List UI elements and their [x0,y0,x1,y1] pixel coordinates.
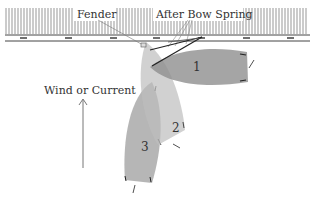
diagram-canvas: Fender After Bow Spring Wind or Current … [0,0,315,199]
wind-label: Wind or Current [44,84,136,97]
after-bow-spring-label: After Bow Spring [155,8,253,21]
wind-arrow [79,99,87,168]
boat-1-number: 1 [193,60,201,74]
fender [141,43,146,47]
boat-2-number: 2 [172,121,180,135]
boat-3-number: 3 [141,140,149,154]
fender-label: Fender [77,8,117,21]
